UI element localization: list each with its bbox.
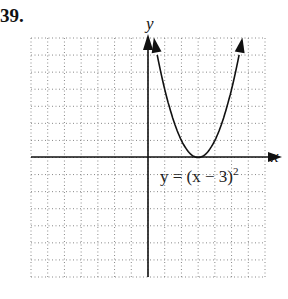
curve-arrow-right-icon (235, 38, 245, 54)
y-axis-label: y (144, 14, 154, 33)
equation-base: y = (x − 3) (160, 167, 233, 186)
x-axis-label: x (270, 147, 279, 166)
equation-label: y = (x − 3)2 (160, 165, 239, 186)
graph: x y y = (x − 3)2 (0, 0, 288, 299)
y-axis-arrow-icon (143, 34, 153, 50)
equation-exponent: 2 (233, 165, 239, 177)
curve-arrow-left-icon (152, 38, 162, 54)
